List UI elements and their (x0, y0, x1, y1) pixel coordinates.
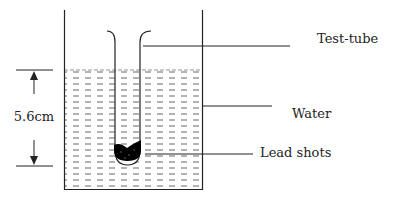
test-tube-label: Test-tube (317, 31, 379, 46)
water-label: Water (292, 106, 332, 121)
lead-shots-label: Lead shots (260, 145, 331, 160)
water-body (64, 70, 203, 190)
test-tube-floating-diagram: 5.6cm Test-tube Water Lead shots (0, 0, 397, 197)
depth-label: 5.6cm (14, 109, 54, 124)
